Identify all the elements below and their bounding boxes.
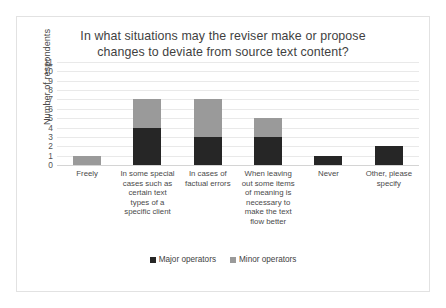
bar-segment[interactable] xyxy=(194,99,222,136)
bar-group[interactable] xyxy=(178,62,238,165)
y-axis-tick-labels: 11109876543210 xyxy=(33,62,53,165)
x-label-line: When leaving xyxy=(238,169,298,179)
bar-group[interactable] xyxy=(298,62,358,165)
x-label-line: Other, please xyxy=(359,169,419,179)
chart-legend: Major operatorsMinor operators xyxy=(17,255,429,264)
x-label-line: Freely xyxy=(57,169,117,179)
x-label-line: necessary to xyxy=(238,198,298,208)
legend-swatch-icon xyxy=(230,257,236,263)
bar-group[interactable] xyxy=(359,62,419,165)
bar-group[interactable] xyxy=(238,62,298,165)
legend-item[interactable]: Major operators xyxy=(150,255,216,264)
bar-stack[interactable] xyxy=(194,99,222,165)
y-tick-0: 0 xyxy=(48,161,53,170)
legend-label: Minor operators xyxy=(239,255,296,264)
x-label-line: specify xyxy=(359,179,419,189)
chart-title-line-1: In what situations may the reviser make … xyxy=(43,28,403,44)
bar-segment[interactable] xyxy=(314,156,342,165)
x-label-line: certain text xyxy=(117,188,177,198)
x-label-line: make the text xyxy=(238,207,298,217)
bar-stack[interactable] xyxy=(254,118,282,165)
bar-segment[interactable] xyxy=(133,99,161,127)
x-label: In some specialcases such ascertain text… xyxy=(117,169,177,217)
chart-container: In what situations may the reviser make … xyxy=(16,16,430,292)
x-label: Never xyxy=(298,169,358,179)
legend-item[interactable]: Minor operators xyxy=(230,255,296,264)
bar-stack[interactable] xyxy=(73,156,101,165)
bar-stack[interactable] xyxy=(133,99,161,165)
bar-segment[interactable] xyxy=(254,137,282,165)
x-label-line: In some special xyxy=(117,169,177,179)
bar-segment[interactable] xyxy=(375,146,403,165)
x-label: When leavingout some itemsof meaning isn… xyxy=(238,169,298,227)
bars-layer xyxy=(57,62,419,165)
x-label-line: flow better xyxy=(238,217,298,227)
chart-title-line-2: changes to deviate from source text cont… xyxy=(43,44,403,60)
x-label: In cases offactual errors xyxy=(178,169,238,188)
legend-swatch-icon xyxy=(150,257,156,263)
x-label: Other, pleasespecify xyxy=(359,169,419,188)
legend-label: Major operators xyxy=(159,255,216,264)
gridline-0 xyxy=(57,165,419,166)
x-label-line: types of a xyxy=(117,198,177,208)
chart-title: In what situations may the reviser make … xyxy=(43,28,403,60)
x-label-line: of meaning is xyxy=(238,188,298,198)
x-label-line: factual errors xyxy=(178,179,238,189)
bar-segment[interactable] xyxy=(133,128,161,165)
x-label-line: In cases of xyxy=(178,169,238,179)
bar-segment[interactable] xyxy=(194,137,222,165)
x-label: Freely xyxy=(57,169,117,179)
x-label-line: specific client xyxy=(117,207,177,217)
bar-segment[interactable] xyxy=(254,118,282,137)
x-label-line: cases such as xyxy=(117,179,177,189)
bar-stack[interactable] xyxy=(375,146,403,165)
bar-stack[interactable] xyxy=(314,156,342,165)
x-axis-tick-labels: FreelyIn some specialcases such ascertai… xyxy=(57,169,419,245)
x-label-line: Never xyxy=(298,169,358,179)
bar-group[interactable] xyxy=(57,62,117,165)
bar-group[interactable] xyxy=(117,62,177,165)
x-label-line: out some items xyxy=(238,179,298,189)
bar-segment[interactable] xyxy=(73,156,101,165)
